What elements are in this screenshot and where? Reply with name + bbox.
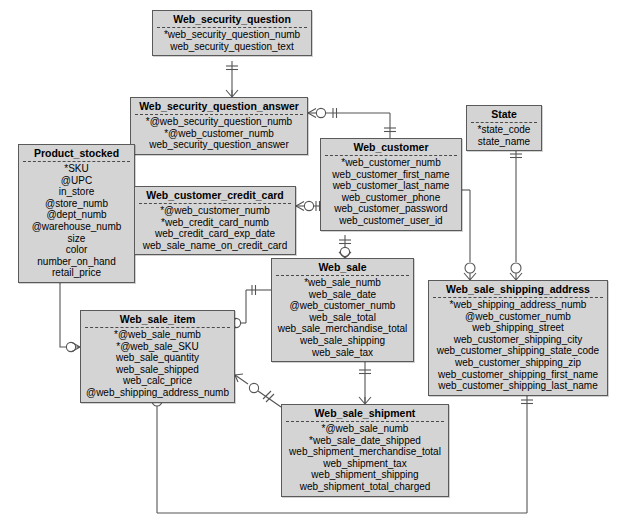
entity-attribute: in_store xyxy=(22,186,131,198)
entity-attribute: @web_customer_numb xyxy=(432,311,604,323)
entity-attribute: *@web_sale_numb xyxy=(285,423,445,435)
entity-attribute: web_sale_total xyxy=(275,312,410,324)
erd-canvas: Web_security_question*web_security_quest… xyxy=(0,0,618,532)
entity-title: Web_sale_item xyxy=(81,311,234,327)
entity-attribute: web_sale_quantity xyxy=(84,352,231,364)
entity-attribute: @web_shipping_address_numb xyxy=(84,387,231,399)
entity-attribute-list: *@web_customer_numb*web_credit_card_numb… xyxy=(135,204,295,254)
entity-product_stocked[interactable]: Product_stocked*SKU@UPCin_store@store_nu… xyxy=(18,144,135,283)
entity-attribute-list: *@web_sale_numb*web_sale_date_shippedweb… xyxy=(282,422,448,496)
entity-title: Web_security_question_answer xyxy=(131,98,307,114)
entity-attribute: web_sale_shipping xyxy=(275,335,410,347)
entity-attribute: web_security_question_text xyxy=(156,41,308,53)
entity-attribute: *web_sale_date_shipped xyxy=(285,435,445,447)
entity-attribute: web_shipping_street xyxy=(432,322,604,334)
entity-attribute: @store_numb xyxy=(22,198,131,210)
entity-title: Product_stocked xyxy=(19,145,134,161)
entity-attribute: *@web_security_question_numb xyxy=(134,116,304,128)
entity-web_security_question[interactable]: Web_security_question*web_security_quest… xyxy=(152,10,312,56)
entity-attribute: state_name xyxy=(470,136,538,148)
entity-attribute: web_sale_merchandise_total xyxy=(275,323,410,335)
entity-attribute: web_calc_price xyxy=(84,375,231,387)
entity-state[interactable]: State*state_codestate_name xyxy=(466,105,542,151)
entity-attribute: *@web_customer_numb xyxy=(134,128,304,140)
entity-attribute-list: *@web_sale_numb*@web_sale_SKUweb_sale_qu… xyxy=(81,328,234,402)
entity-title: Web_sale_shipment xyxy=(282,405,448,421)
entity-attribute-list: *state_codestate_name xyxy=(467,123,541,150)
entity-attribute: *state_code xyxy=(470,124,538,136)
entity-attribute: @UPC xyxy=(22,175,131,187)
entity-title: Web_security_question xyxy=(153,11,311,27)
entity-attribute: web_shipment_merchandise_total xyxy=(285,446,445,458)
entity-web_customer[interactable]: Web_customer*web_customer_numbweb_custom… xyxy=(320,138,462,231)
entity-title: Web_customer xyxy=(321,139,461,155)
entity-attribute: *@web_sale_SKU xyxy=(84,341,231,353)
entity-attribute: *web_sale_numb xyxy=(275,277,410,289)
entity-title: Web_sale_shipping_address xyxy=(429,281,607,297)
entity-attribute-list: *web_customer_numbweb_customer_first_nam… xyxy=(321,156,461,230)
entity-attribute: web_security_question_answer xyxy=(134,139,304,151)
entity-web_customer_credit_card[interactable]: Web_customer_credit_card*@web_customer_n… xyxy=(134,186,296,255)
entity-title: Web_sale xyxy=(272,259,413,275)
entity-attribute: web_sale_name_on_credit_card xyxy=(138,240,292,252)
entity-attribute: color xyxy=(22,244,131,256)
entity-attribute: web_customer_phone xyxy=(324,192,458,204)
entity-attribute-list: *SKU@UPCin_store@store_numb@dept_numb@wa… xyxy=(19,162,134,282)
entity-attribute: web_shipment_tax xyxy=(285,458,445,470)
entity-attribute: web_credit_card_exp_date xyxy=(138,228,292,240)
entity-attribute: @warehouse_numb xyxy=(22,221,131,233)
entity-attribute-list: *web_sale_numbweb_sale_date@web_customer… xyxy=(272,276,413,361)
entity-attribute-list: *web_security_question_numbweb_security_… xyxy=(153,28,311,55)
entity-attribute: *web_credit_card_numb xyxy=(138,217,292,229)
entity-attribute: web_customer_shipping_city xyxy=(432,334,604,346)
entity-attribute: web_shipment_shipping xyxy=(285,469,445,481)
entity-attribute: web_sale_tax xyxy=(275,347,410,359)
entity-web_sale_shipping_address[interactable]: Web_sale_shipping_address*web_shipping_a… xyxy=(428,280,608,396)
entity-web_sale[interactable]: Web_sale*web_sale_numbweb_sale_date@web_… xyxy=(271,258,414,362)
entity-attribute: @web_customer_numb xyxy=(275,300,410,312)
entity-attribute: *@web_customer_numb xyxy=(138,205,292,217)
entity-web_sale_shipment[interactable]: Web_sale_shipment*@web_sale_numb*web_sal… xyxy=(281,404,449,497)
entity-attribute: web_sale_date xyxy=(275,289,410,301)
entity-attribute: web_customer_last_name xyxy=(324,180,458,192)
rel-sale-item-to-shipment xyxy=(235,375,248,384)
entity-attribute: web_customer_shipping_state_code xyxy=(432,345,604,357)
entity-attribute-list: *@web_security_question_numb*@web_custom… xyxy=(131,115,307,154)
entity-attribute: web_customer_first_name xyxy=(324,169,458,181)
entity-attribute: *@web_sale_numb xyxy=(84,329,231,341)
entity-title: Web_customer_credit_card xyxy=(135,187,295,203)
entity-attribute: *SKU xyxy=(22,163,131,175)
entity-attribute: *web_customer_numb xyxy=(324,157,458,169)
entity-attribute: web_customer_shipping_zip xyxy=(432,357,604,369)
entity-attribute: *web_security_question_numb xyxy=(156,29,308,41)
entity-attribute: *web_shipping_address_numb xyxy=(432,299,604,311)
entity-attribute: web_sale_shipped xyxy=(84,364,231,376)
entity-attribute: web_customer_user_id xyxy=(324,215,458,227)
entity-attribute: size xyxy=(22,233,131,245)
entity-attribute: retail_price xyxy=(22,267,131,279)
entity-attribute: web_customer_shipping_last_name xyxy=(432,380,604,392)
entity-attribute: web_customer_shipping_first_name xyxy=(432,369,604,381)
entity-attribute-list: *web_shipping_address_numb@web_customer_… xyxy=(429,298,607,395)
entity-attribute: web_shipment_total_charged xyxy=(285,481,445,493)
entity-web_sale_item[interactable]: Web_sale_item*@web_sale_numb*@web_sale_S… xyxy=(80,310,235,403)
entity-attribute: @dept_numb xyxy=(22,209,131,221)
entity-web_security_question_answer[interactable]: Web_security_question_answer*@web_securi… xyxy=(130,97,308,155)
entity-attribute: number_on_hand xyxy=(22,256,131,268)
entity-attribute: web_customer_password xyxy=(324,203,458,215)
entity-title: State xyxy=(467,106,541,122)
